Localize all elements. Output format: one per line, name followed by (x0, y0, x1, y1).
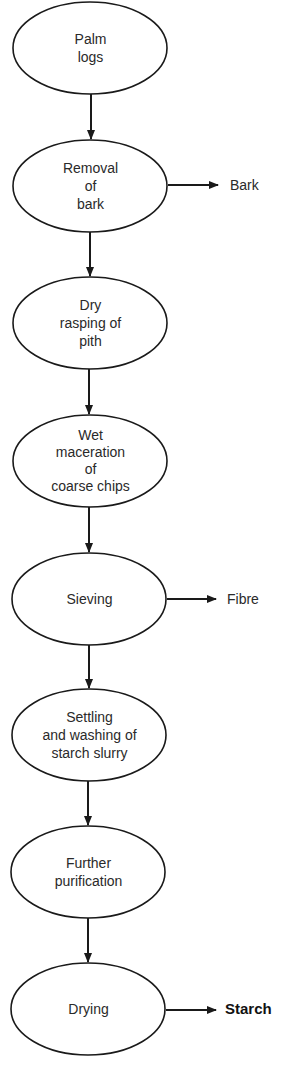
node-label-line: Further (55, 854, 123, 872)
node-label-line: Sieving (67, 590, 113, 608)
node-label-line: starch slurry (42, 744, 136, 762)
node-drying: Drying (11, 963, 166, 1055)
node-label-line: Wet (51, 427, 130, 444)
node-label-line: Removal (63, 159, 118, 177)
node-dry-rasping: Dry rasping of pith (13, 277, 168, 369)
node-label-line: Drying (68, 1000, 108, 1018)
output-label-fibre: Fibre (227, 591, 259, 607)
node-label-line: bark (63, 195, 118, 213)
node-label-line: Settling (42, 708, 136, 726)
node-label-line: purification (55, 872, 123, 890)
output-label-starch: Starch (225, 1001, 272, 1017)
node-label-line: pith (60, 332, 121, 350)
node-wet-maceration: Wet maceration of coarse chips (13, 415, 168, 507)
node-label-line: coarse chips (51, 478, 130, 495)
node-label-line: Dry (60, 296, 121, 314)
node-label-line: Palm (75, 30, 107, 48)
node-palm-logs: Palm logs (13, 2, 168, 94)
node-removal-of-bark: Removal of bark (13, 140, 168, 232)
node-label-line: and washing of (42, 726, 136, 744)
node-label-line: maceration (51, 444, 130, 461)
node-settling-washing: Settling and washing of starch slurry (12, 689, 167, 781)
node-label-line: rasping of (60, 314, 121, 332)
node-further-purification: Further purification (11, 826, 166, 918)
output-label-bark: Bark (230, 177, 259, 193)
node-label-line: logs (75, 48, 107, 66)
node-label-line: of (63, 177, 118, 195)
node-sieving: Sieving (12, 553, 167, 645)
node-label-line: of (51, 461, 130, 478)
